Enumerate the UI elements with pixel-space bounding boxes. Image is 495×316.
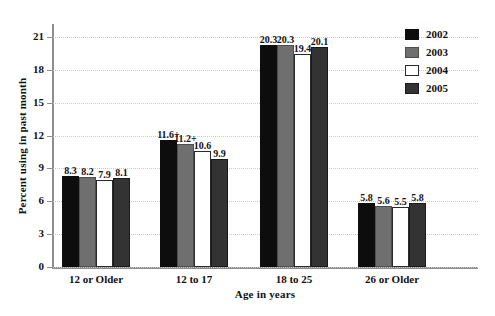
bar-chart: Percent using in past month 036912151821… [0, 0, 495, 316]
bar-value-label: 20.1 [311, 37, 329, 47]
legend-item: 2002 [405, 27, 448, 42]
bar-value-label: 8.2 [81, 167, 94, 177]
legend: 2002200320042005 [405, 27, 448, 99]
bar: 20.3 [277, 45, 294, 267]
bar-value-label: 9.9 [213, 149, 226, 159]
legend-swatch [405, 65, 419, 76]
bar: 5.5 [392, 207, 409, 267]
bar-value-label: 7.9 [98, 170, 111, 180]
legend-swatch [405, 83, 419, 94]
bar-value-label: 19.4 [294, 44, 312, 54]
bar: 5.8 [358, 203, 375, 267]
legend-label: 2003 [426, 47, 448, 58]
bar-value-label: 20.3 [277, 35, 295, 45]
y-axis-tick-label: 15 [33, 96, 44, 108]
y-axis-tick-label: 6 [39, 194, 45, 206]
y-axis-tick-mark [47, 136, 53, 137]
x-axis-category-label: 26 or Older [365, 273, 419, 285]
bar-value-label: 5.8 [360, 193, 373, 203]
bar: 5.6 [375, 206, 392, 267]
y-axis-tick-mark [47, 37, 53, 38]
bar: 11.6+ [160, 140, 177, 267]
y-axis-tick-label: 12 [33, 129, 44, 141]
bar: 8.3 [62, 176, 79, 267]
bar-value-label: 10.6 [194, 141, 212, 151]
bar: 5.8 [409, 203, 426, 267]
x-axis-category-label: 18 to 25 [276, 273, 313, 285]
bar-value-label: 8.3 [64, 166, 77, 176]
legend-item: 2005 [405, 81, 448, 96]
y-axis-tick-label: 3 [39, 227, 45, 239]
x-axis-title: Age in years [52, 288, 478, 300]
bar: 10.6 [194, 151, 211, 267]
bar-value-label: 8.1 [115, 168, 128, 178]
bar-value-label: 5.8 [411, 193, 424, 203]
x-axis-category-label: 12 or Older [69, 273, 123, 285]
legend-item: 2004 [405, 63, 448, 78]
legend-swatch [405, 47, 419, 58]
y-axis-tick-mark [47, 70, 53, 71]
bar: 20.1 [311, 47, 328, 267]
y-axis-tick-mark [47, 267, 53, 268]
y-axis-tick-mark [47, 201, 53, 202]
legend-label: 2005 [426, 83, 448, 94]
y-axis-tick-label: 0 [39, 260, 45, 272]
y-axis-tick-label: 21 [33, 30, 44, 42]
gridline [52, 267, 478, 268]
bar-value-label: 5.5 [394, 197, 407, 207]
bar: 8.2 [79, 177, 96, 267]
y-axis-tick-mark [47, 168, 53, 169]
legend-item: 2003 [405, 45, 448, 60]
x-axis-category-label: 12 to 17 [176, 273, 213, 285]
bar: 19.4 [294, 54, 311, 267]
bar: 20.3 [260, 45, 277, 267]
bar: 8.1 [113, 178, 130, 267]
bar: 7.9 [96, 180, 113, 267]
bar-value-label: 20.3 [260, 35, 278, 45]
y-axis-title: Percent using in past month [16, 46, 28, 246]
legend-swatch [405, 29, 419, 40]
bar: 11.2+ [177, 144, 194, 267]
legend-label: 2004 [426, 65, 448, 76]
bar: 9.9 [211, 159, 228, 267]
y-axis-tick-mark [47, 103, 53, 104]
y-axis-tick-label: 9 [39, 161, 45, 173]
y-axis-tick-mark [47, 234, 53, 235]
bar-value-label: 5.6 [377, 196, 390, 206]
y-axis-tick-label: 18 [33, 63, 44, 75]
y-axis-line [52, 24, 54, 269]
legend-label: 2002 [426, 29, 448, 40]
